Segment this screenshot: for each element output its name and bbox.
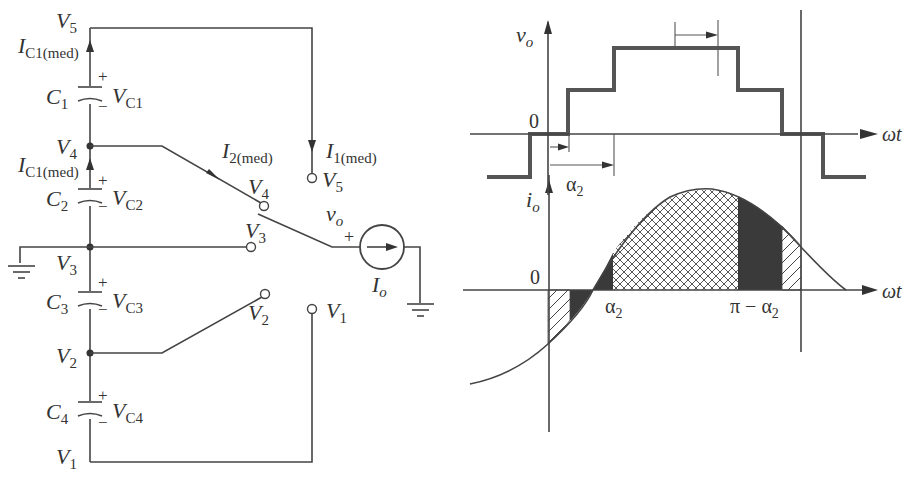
plus-sign: + xyxy=(98,67,108,86)
node-label-v2: V2 xyxy=(56,343,77,371)
dark-region-left-neg xyxy=(570,290,593,320)
source-label-io: Io xyxy=(371,272,387,300)
plus-sign: + xyxy=(98,386,108,405)
minus-sign: − xyxy=(98,97,108,116)
alpha2-label-vo: α2 xyxy=(566,173,583,199)
minus-sign: − xyxy=(98,300,108,319)
circuit-diagram: V5 IC1(med) C1 + − VC1 V4 IC1(med) C2 + … xyxy=(8,8,434,472)
vo-x-axis-label: ωt xyxy=(882,123,902,145)
arrow-diag-icon xyxy=(206,169,220,180)
minus-sign: − xyxy=(98,413,108,432)
ground-icon xyxy=(407,304,434,316)
terminal-v2 xyxy=(261,290,270,299)
arrow-up-icon xyxy=(544,20,552,34)
plus-sign: + xyxy=(98,171,108,190)
terminal-v4 xyxy=(260,202,269,211)
io-x-axis-label: ωt xyxy=(882,280,902,302)
current-label-ic1-top: IC1(med) xyxy=(17,33,79,62)
io-axis-label: io xyxy=(526,187,540,215)
voltage-label-vc1: VC1 xyxy=(112,83,143,111)
wire-v3 xyxy=(20,247,246,263)
terminal-label-v3: V3 xyxy=(245,218,266,246)
terminal-label-v4: V4 xyxy=(248,174,269,202)
voltage-label-vc2: VC2 xyxy=(112,185,143,213)
cap-label-c4: C4 xyxy=(46,399,69,427)
arrow-up-icon xyxy=(86,158,94,170)
wire-ground-right xyxy=(404,247,420,303)
vo-axis-label: vo xyxy=(516,22,534,50)
ground-icon xyxy=(8,266,35,278)
arrow-right-icon xyxy=(706,32,718,39)
node-label-v3: V3 xyxy=(56,250,77,278)
arrow-right-icon xyxy=(558,144,569,151)
io-zero-label: 0 xyxy=(530,266,540,288)
terminal-label-v5: V5 xyxy=(322,167,343,195)
wire-v1 xyxy=(90,314,312,462)
terminal-v1 xyxy=(308,305,317,314)
arrow-up-icon xyxy=(545,180,553,193)
arrow-up-icon xyxy=(86,40,94,52)
arrow-down-icon xyxy=(308,140,316,152)
current-source xyxy=(360,225,404,269)
output-voltage-label: vo xyxy=(326,201,344,229)
plus-sign: + xyxy=(98,273,108,292)
node-label-v1: V1 xyxy=(56,444,77,472)
voltage-label-vc3: VC3 xyxy=(112,288,143,316)
node-label-v4: V4 xyxy=(56,134,77,162)
current-label-i1: I1(med) xyxy=(325,138,377,167)
cap-label-c2: C2 xyxy=(46,186,68,214)
alpha2-label-io: α2 xyxy=(605,295,622,321)
crosshatch-region xyxy=(613,190,738,290)
cap-label-c3: C3 xyxy=(46,289,68,317)
figure-canvas: V5 IC1(med) C1 + − VC1 V4 IC1(med) C2 + … xyxy=(0,0,914,485)
hatched-region-left xyxy=(548,290,570,344)
current-label-i2: I2(med) xyxy=(221,138,273,167)
terminal-v3 xyxy=(247,243,256,252)
plus-sign: + xyxy=(344,227,354,247)
arrow-right-icon xyxy=(862,285,878,295)
waveform-plots: vo 0 ωt io 0 ωt α2 α2 π − α2 xyxy=(463,10,902,432)
arrow-right-icon xyxy=(602,162,614,169)
terminal-label-v1: V1 xyxy=(326,298,347,326)
arrow-right-icon xyxy=(860,129,878,139)
voltage-label-vc4: VC4 xyxy=(112,398,143,426)
terminal-label-v2: V2 xyxy=(248,300,269,328)
cap-label-c1: C1 xyxy=(46,84,68,112)
vo-staircase-waveform xyxy=(487,48,866,177)
pi-minus-alpha2-label: π − α2 xyxy=(730,295,779,321)
terminal-v5 xyxy=(308,174,317,183)
minus-sign: − xyxy=(98,197,108,216)
node-label-v5: V5 xyxy=(56,8,77,36)
vo-zero-label: 0 xyxy=(529,110,539,132)
